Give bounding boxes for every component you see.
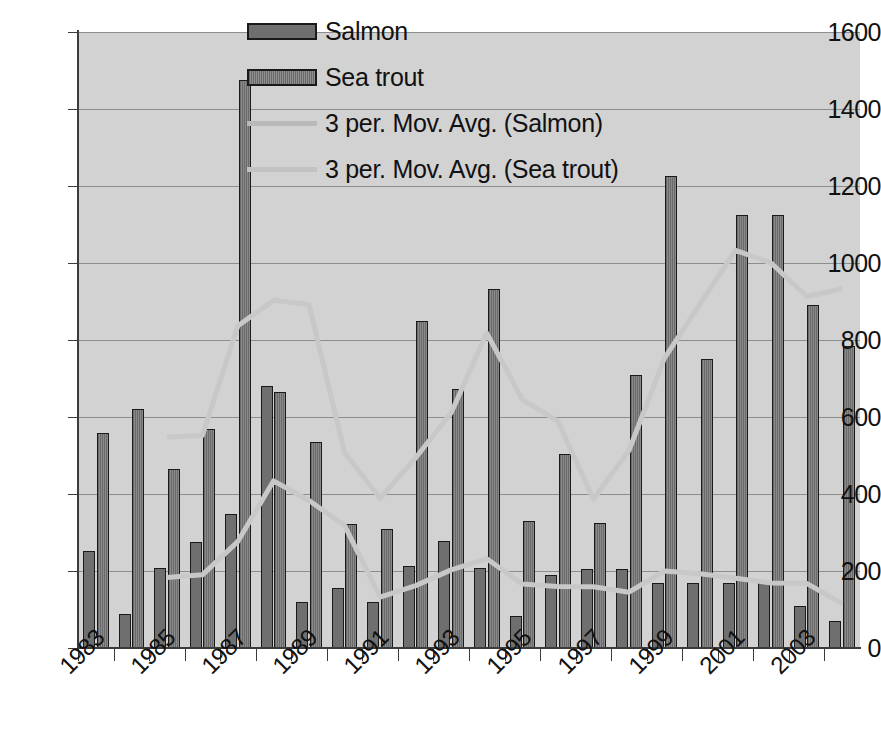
y-tick-mark-1000 bbox=[68, 263, 77, 264]
y-tick-label-1200: 1200 bbox=[811, 174, 881, 199]
chart-legend: SalmonSea trout3 per. Mov. Avg. (Salmon)… bbox=[247, 8, 667, 192]
y-tick-label-200: 200 bbox=[811, 559, 881, 584]
bar-swatch-salmon-icon bbox=[247, 23, 317, 40]
line-swatch-seatrout-avg-icon bbox=[247, 167, 317, 172]
legend-item-salmon[interactable]: Salmon bbox=[247, 8, 667, 54]
y-tick-mark-600 bbox=[68, 417, 77, 418]
x-tick-mark-1990 bbox=[327, 649, 328, 661]
line-3-per-mov-avg-sea-trout- bbox=[167, 250, 842, 499]
chart-container: 02004006008001000120014001600 1983198519… bbox=[0, 0, 881, 738]
y-tick-mark-1400 bbox=[68, 109, 77, 110]
line-swatch-salmon-avg-icon bbox=[247, 121, 317, 126]
y-tick-label-400: 400 bbox=[811, 482, 881, 507]
x-tick-mark-1996 bbox=[540, 649, 541, 661]
bar-swatch-seatrout-icon bbox=[247, 69, 317, 86]
legend-label: Sea trout bbox=[325, 63, 424, 92]
legend-item-3-per-mov-avg-salmon[interactable]: 3 per. Mov. Avg. (Salmon) bbox=[247, 100, 667, 146]
y-tick-label-0: 0 bbox=[811, 636, 881, 661]
legend-label: 3 per. Mov. Avg. (Sea trout) bbox=[325, 155, 619, 184]
x-tick-mark-2002 bbox=[753, 649, 754, 661]
y-tick-mark-800 bbox=[68, 340, 77, 341]
x-tick-mark-1994 bbox=[469, 649, 470, 661]
y-tick-label-1600: 1600 bbox=[811, 20, 881, 45]
legend-label: 3 per. Mov. Avg. (Salmon) bbox=[325, 109, 603, 138]
y-tick-mark-1600 bbox=[68, 32, 77, 33]
y-tick-mark-1200 bbox=[68, 186, 77, 187]
x-tick-mark-1984 bbox=[114, 649, 115, 661]
x-tick-mark-1988 bbox=[256, 649, 257, 661]
line-3-per-mov-avg-salmon- bbox=[167, 481, 842, 604]
legend-label: Salmon bbox=[325, 17, 408, 46]
y-axis-line bbox=[77, 30, 79, 650]
x-tick-mark-1998 bbox=[611, 649, 612, 661]
y-tick-mark-400 bbox=[68, 494, 77, 495]
x-tick-mark-1992 bbox=[398, 649, 399, 661]
y-tick-label-1400: 1400 bbox=[811, 97, 881, 122]
x-tick-mark-2004 bbox=[824, 649, 825, 661]
y-tick-label-600: 600 bbox=[811, 405, 881, 430]
x-tick-mark-2000 bbox=[682, 649, 683, 661]
y-tick-label-800: 800 bbox=[811, 328, 881, 353]
x-tick-mark-1986 bbox=[185, 649, 186, 661]
legend-item-3-per-mov-avg-sea-trout[interactable]: 3 per. Mov. Avg. (Sea trout) bbox=[247, 146, 667, 192]
legend-item-sea-trout[interactable]: Sea trout bbox=[247, 54, 667, 100]
y-tick-label-1000: 1000 bbox=[811, 251, 881, 276]
y-tick-mark-200 bbox=[68, 571, 77, 572]
